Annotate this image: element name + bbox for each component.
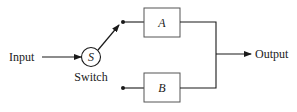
block-a-label: A <box>157 16 166 30</box>
switch-diagram: Input S Switch A B Output <box>0 0 297 112</box>
input-label: Input <box>9 50 35 64</box>
merge-lines <box>180 22 216 88</box>
switch-lever-arrow <box>98 25 119 50</box>
output-label: Output <box>255 47 289 61</box>
switch-symbol: S <box>88 50 94 64</box>
block-b-label: B <box>158 81 166 95</box>
switch-label: Switch <box>74 70 107 84</box>
